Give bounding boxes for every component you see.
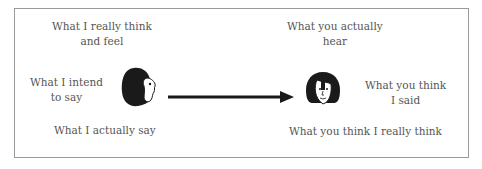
label-line: to say bbox=[30, 90, 103, 105]
label-line: What I intend bbox=[30, 75, 103, 90]
woman-profile-face-icon bbox=[120, 66, 160, 108]
label-what-i-actually-say: What I actually say bbox=[54, 123, 156, 138]
label-what-i-intend: What I intend to say bbox=[30, 75, 103, 105]
label-line: What I really think bbox=[52, 19, 152, 34]
woman-front-face-icon bbox=[304, 70, 342, 108]
label-line: and feel bbox=[52, 34, 152, 49]
label-line: What you actually bbox=[287, 19, 383, 34]
label-line: hear bbox=[287, 34, 383, 49]
label-what-i-really-think: What I really think and feel bbox=[52, 19, 152, 49]
label-what-you-think-i-really-think: What you think I really think bbox=[289, 124, 442, 139]
label-line: I said bbox=[365, 93, 446, 108]
label-what-you-think-i-said: What you think I said bbox=[365, 78, 446, 108]
label-what-you-actually-hear: What you actually hear bbox=[287, 19, 383, 49]
arrow-right-icon bbox=[166, 90, 296, 104]
label-line: What you think bbox=[365, 78, 446, 93]
